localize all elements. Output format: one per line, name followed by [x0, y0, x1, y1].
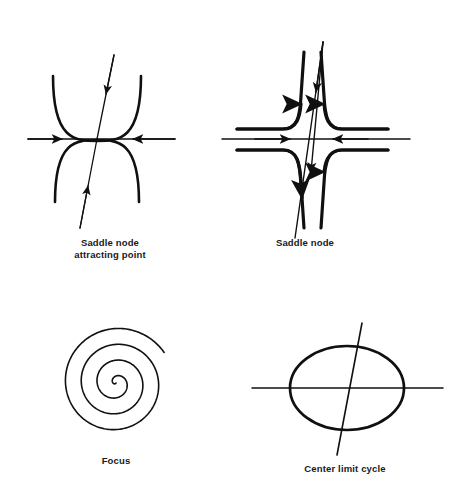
caption-saddle-node: Saddle node — [205, 237, 405, 249]
caption-focus: Focus — [36, 455, 196, 467]
caption-saddle-node-attracting-point: Saddle node attracting point — [10, 237, 210, 260]
caption-center-limit-cycle: Center limit cycle — [245, 463, 445, 475]
